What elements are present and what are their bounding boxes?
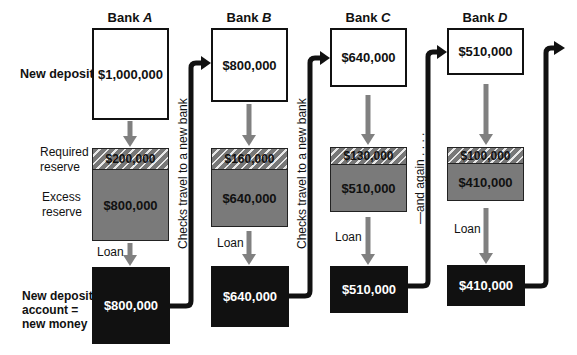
connector-ab-label: Checks travel to a new bank <box>176 98 190 249</box>
bank-d-title: Bank D <box>440 10 530 25</box>
bank-d-new-money: $410,000 <box>447 265 525 306</box>
bank-d-required-reserve: $100,000 <box>448 148 523 164</box>
bank-c-required-reserve: $130,000 <box>331 148 406 165</box>
bank-a-reserve: $200,000 $800,000 <box>92 148 169 241</box>
label-new-money-line2: account = <box>22 303 93 317</box>
label-new-money-line1: New deposit <box>22 289 93 303</box>
bank-c-loan-label: Loan <box>335 230 362 245</box>
bank-b-reserve: $160,000 $640,000 <box>211 148 288 227</box>
bank-c-deposit-box: $640,000 <box>330 28 407 87</box>
label-excess-line1: Excess <box>42 190 82 205</box>
label-required-reserve: Required reserve <box>40 145 89 175</box>
label-excess-line2: reserve <box>42 205 82 220</box>
bank-a-new-money: $800,000 <box>92 267 170 344</box>
label-new-money: New deposit account = new money <box>22 289 93 331</box>
bank-b-new-money: $640,000 <box>211 266 289 327</box>
bank-c-title: Bank C <box>323 10 413 25</box>
bank-d-excess-reserve: $410,000 <box>448 164 523 200</box>
bank-c-reserve: $130,000 $510,000 <box>330 147 407 212</box>
bank-d-deposit-box: $510,000 <box>447 28 524 75</box>
bank-a-excess-reserve: $800,000 <box>93 170 168 240</box>
label-required-line2: reserve <box>40 160 89 175</box>
bank-a-deposit-box: $1,000,000 <box>92 28 169 120</box>
bank-b-required-reserve: $160,000 <box>212 149 287 170</box>
bank-b-loan-label: Loan <box>217 236 244 251</box>
connector-bc-label: Checks travel to a new bank <box>295 98 309 249</box>
bank-b-deposit-box: $800,000 <box>211 28 288 102</box>
bank-a-title: Bank A <box>85 10 175 25</box>
label-new-money-line3: new money <box>22 317 93 331</box>
bank-a-required-reserve: $200,000 <box>93 149 168 170</box>
bank-d-loan-label: Loan <box>454 222 481 237</box>
connector-cd-label: —and again . . . . <box>413 133 427 224</box>
bank-d-reserve: $100,000 $410,000 <box>447 147 524 201</box>
bank-c-new-money: $510,000 <box>330 266 408 313</box>
bank-b-excess-reserve: $640,000 <box>212 170 287 226</box>
label-excess-reserve: Excess reserve <box>42 190 82 220</box>
label-required-line1: Required <box>40 145 89 160</box>
bank-b-title: Bank B <box>204 10 294 25</box>
bank-c-excess-reserve: $510,000 <box>331 165 406 211</box>
label-new-deposits: New deposits <box>20 67 101 81</box>
bank-a-loan-label: Loan <box>97 245 124 260</box>
